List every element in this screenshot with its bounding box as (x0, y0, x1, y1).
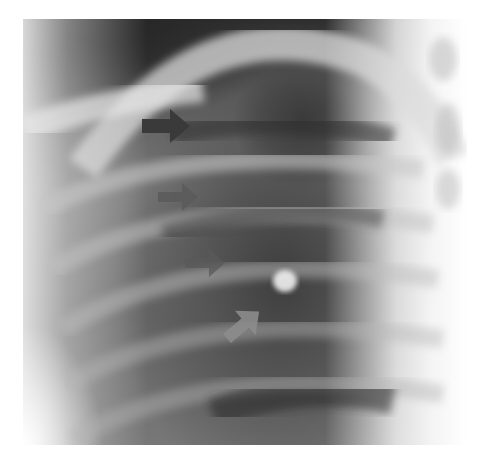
xray-image (23, 19, 467, 445)
arrow-3-icon (185, 249, 227, 277)
rib-overlay (23, 19, 467, 445)
arrow-4-icon (220, 302, 266, 348)
arrow-1-icon (142, 109, 192, 143)
arrow-2-icon (158, 183, 200, 211)
